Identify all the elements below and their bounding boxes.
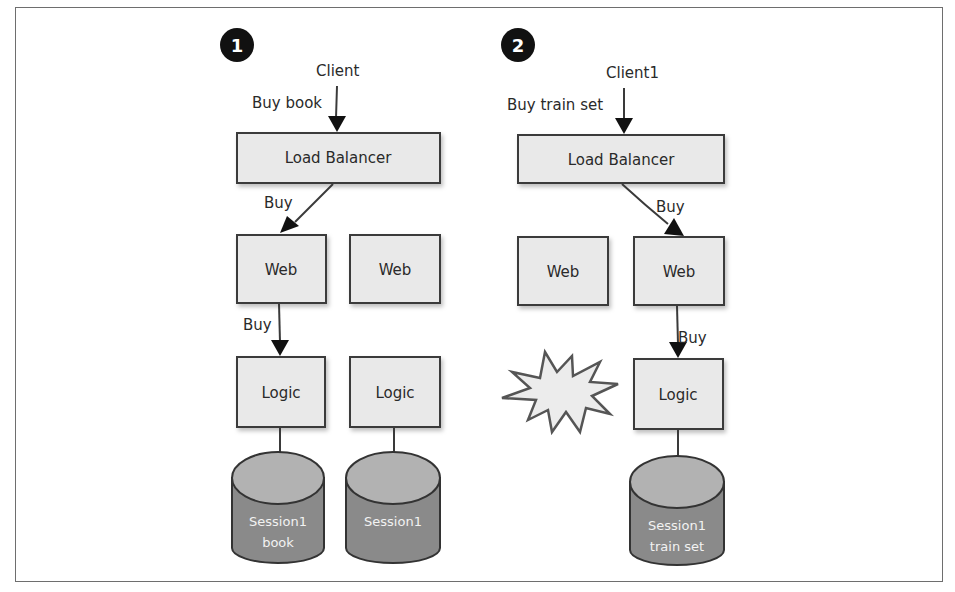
svg-text:Web: Web — [663, 263, 696, 281]
svg-text:Web: Web — [265, 261, 298, 279]
svg-text:Web: Web — [379, 261, 412, 279]
svg-text:Load Balancer: Load Balancer — [568, 151, 676, 169]
load-balancer-node: Load Balancer — [518, 135, 724, 183]
badge-2: 2 — [501, 28, 535, 62]
client-label: Client — [316, 62, 360, 80]
web-node-2: Web — [634, 237, 724, 305]
lb-to-web-line — [295, 184, 333, 222]
client-to-lb-line — [336, 86, 337, 118]
arrow-down-icon — [664, 218, 684, 236]
svg-text:Session1: Session1 — [249, 514, 307, 529]
failed-logic-explosion-icon — [502, 352, 618, 432]
web-to-logic-label: Buy — [243, 316, 272, 334]
architecture-diagram: 1 Client Buy book Load Balancer Buy Web … — [0, 0, 955, 592]
lb-to-web-label: Buy — [656, 198, 685, 216]
svg-text:1: 1 — [231, 35, 244, 56]
logic-node-2: Logic — [634, 359, 723, 429]
web-to-logic-label: Buy — [678, 329, 707, 347]
logic-node-1: Logic — [237, 357, 325, 427]
web-to-logic-line — [279, 304, 280, 342]
logic-node-2: Logic — [350, 357, 440, 427]
web-node-1: Web — [237, 235, 326, 303]
svg-text:2: 2 — [512, 35, 525, 56]
svg-text:Session1: Session1 — [648, 518, 706, 533]
svg-text:Web: Web — [547, 263, 580, 281]
web-node-1: Web — [518, 237, 608, 305]
client-label: Client1 — [606, 64, 659, 82]
arrow-down-icon — [280, 216, 299, 233]
arrow-down-icon — [271, 340, 289, 356]
lb-to-web-label: Buy — [264, 194, 293, 212]
svg-text:book: book — [262, 535, 294, 550]
request-label: Buy train set — [507, 96, 603, 114]
svg-text:Logic: Logic — [261, 384, 300, 402]
arrow-down-icon — [328, 116, 346, 132]
svg-text:Session1: Session1 — [364, 514, 422, 529]
svg-text:Logic: Logic — [658, 386, 697, 404]
session-store-2: Session1 — [346, 452, 440, 563]
panel-2: 2 Client1 Buy train set Load Balancer Bu… — [501, 28, 724, 565]
badge-1: 1 — [220, 28, 254, 62]
panel-1: 1 Client Buy book Load Balancer Buy Web … — [220, 28, 440, 563]
load-balancer-node: Load Balancer — [237, 133, 440, 183]
svg-text:train set: train set — [650, 539, 704, 554]
arrow-down-icon — [615, 118, 633, 134]
session-store-1: Session1 book — [232, 452, 324, 563]
svg-text:Logic: Logic — [375, 384, 414, 402]
session-store-train-set: Session1 train set — [630, 456, 724, 565]
web-node-2: Web — [350, 235, 440, 303]
svg-text:Load Balancer: Load Balancer — [285, 149, 393, 167]
request-label: Buy book — [252, 94, 322, 112]
